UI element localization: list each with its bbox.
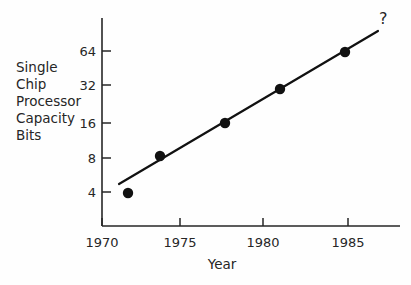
x-axis-label: Year (162, 258, 282, 272)
x-tick-marks (102, 218, 348, 226)
x-tick-label-1985: 1985 (318, 236, 378, 249)
data-point (275, 84, 285, 94)
y-axis-label-line-5: Bits (16, 127, 81, 144)
data-point (220, 118, 230, 128)
y-tick-label-4: 4 (56, 186, 96, 199)
y-axis-label-line-2: Chip (16, 76, 81, 93)
x-tick-label-1970: 1970 (72, 236, 132, 249)
data-point (340, 47, 350, 57)
chart-figure: 64 32 16 8 4 1970 1975 1980 1985 Single … (0, 0, 411, 285)
y-axis-label-line-1: Single (16, 59, 81, 76)
data-point (123, 188, 133, 198)
y-tick-marks (102, 51, 111, 192)
y-axis-label-line-3: Processor (16, 93, 81, 110)
x-tick-label-1975: 1975 (150, 236, 210, 249)
data-points (123, 47, 350, 198)
y-axis-label: Single Chip Processor Capacity Bits (16, 59, 81, 144)
y-tick-label-64: 64 (56, 45, 96, 58)
x-tick-label-1980: 1980 (233, 236, 293, 249)
trend-line (119, 31, 378, 184)
data-point (155, 151, 165, 161)
question-mark-annotation: ? (379, 11, 388, 27)
y-tick-label-8: 8 (56, 152, 96, 165)
y-axis-label-line-4: Capacity (16, 110, 81, 127)
